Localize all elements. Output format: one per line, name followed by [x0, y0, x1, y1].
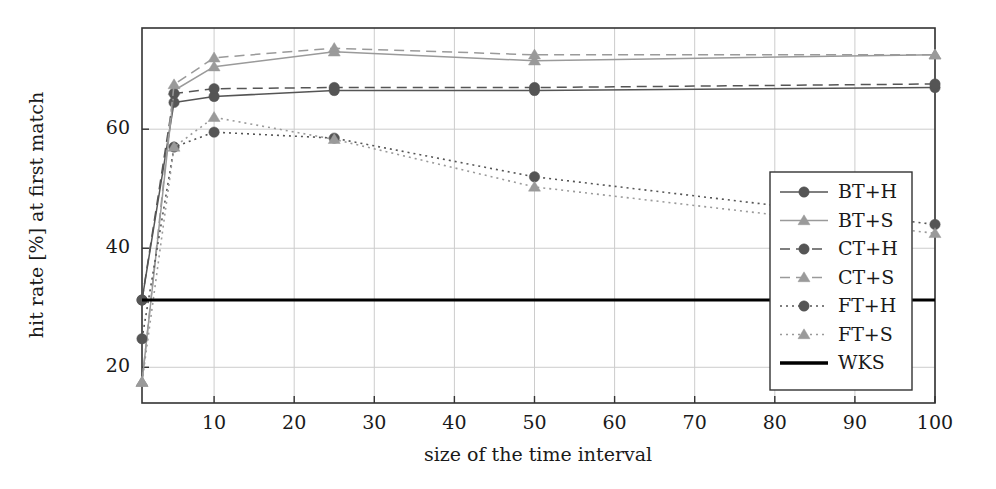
- y-axis-title: hit rate [%] at first match: [25, 92, 47, 338]
- y-tick-label: 40: [106, 235, 130, 257]
- data-point-marker: [529, 172, 539, 182]
- x-tick-label: 90: [843, 411, 867, 433]
- chart-canvas: 204060 102030405060708090100 hit rate [%…: [0, 0, 996, 489]
- x-tick-label: 10: [202, 411, 226, 433]
- data-point-marker: [529, 82, 539, 92]
- data-point-marker: [930, 79, 940, 89]
- data-point-marker: [799, 187, 809, 197]
- data-point-marker: [137, 334, 147, 344]
- chart-figure: 204060 102030405060708090100 hit rate [%…: [0, 0, 996, 489]
- legend-item-label: BT+S: [838, 209, 894, 231]
- data-point-marker: [799, 244, 809, 254]
- x-tick-label: 60: [603, 411, 627, 433]
- legend-item-label: BT+H: [838, 180, 897, 202]
- data-point-marker: [209, 84, 219, 94]
- legend-item-label: CT+S: [838, 266, 894, 288]
- data-point-marker: [799, 301, 809, 311]
- x-tick-label: 30: [362, 411, 386, 433]
- y-tick-label: 20: [106, 354, 130, 376]
- x-axis-title: size of the time interval: [424, 443, 652, 465]
- x-tick-label: 50: [522, 411, 546, 433]
- x-tick-label: 100: [917, 411, 953, 433]
- legend-item-label: WKS: [838, 351, 885, 373]
- data-point-marker: [209, 127, 219, 137]
- x-tick-label: 40: [442, 411, 466, 433]
- legend-item-label: CT+H: [838, 237, 898, 259]
- x-tick-label: 80: [763, 411, 787, 433]
- chart-legend: BT+HBT+SCT+HCT+SFT+HFT+SWKS: [770, 172, 912, 390]
- legend-item-label: FT+H: [838, 294, 896, 316]
- data-point-marker: [329, 82, 339, 92]
- x-tick-label: 70: [683, 411, 707, 433]
- legend-item-label: FT+S: [838, 323, 893, 345]
- x-tick-label: 20: [282, 411, 306, 433]
- y-tick-label: 60: [106, 116, 130, 138]
